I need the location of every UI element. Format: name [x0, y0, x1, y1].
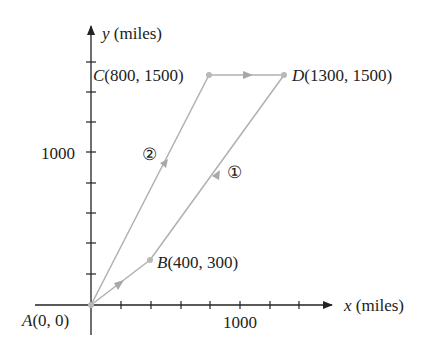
arrow-icon: [243, 71, 253, 79]
point-b: [147, 257, 153, 263]
arrow-icon: [114, 280, 124, 290]
y-axis-label: y (miles): [100, 24, 162, 43]
point-a-label: A(0, 0): [21, 311, 69, 330]
points: [88, 72, 287, 308]
x-tick-label-1000: 1000: [223, 313, 257, 332]
y-tick-label-1000: 1000: [41, 144, 75, 163]
x-axis: [35, 301, 332, 309]
point-c-label: C(800, 1500): [93, 66, 184, 85]
route-diagram: y (miles) x (miles) 1000 1000 A(0, 0) B(…: [0, 0, 443, 355]
point-d-label: D(1300, 1500): [291, 66, 392, 85]
point-b-label: B(400, 300): [157, 253, 238, 272]
point-c: [206, 72, 212, 78]
x-axis-label: x (miles): [343, 296, 404, 315]
route-2-label: ②: [142, 145, 157, 164]
point-d: [281, 72, 287, 78]
point-a: [88, 302, 94, 308]
route-1-label: ①: [227, 163, 242, 182]
